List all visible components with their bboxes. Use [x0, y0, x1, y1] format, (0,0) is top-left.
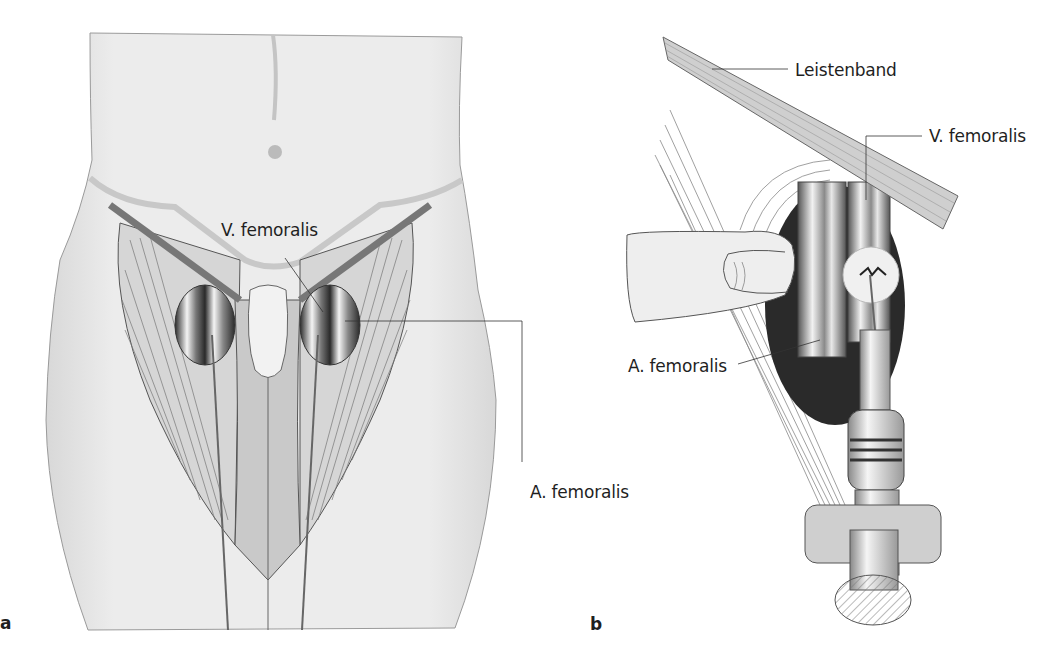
panel-b-puncture-detail: Leistenband V. femoralis A. femoralis b: [530, 0, 1056, 664]
label-vena-femoralis-b: V. femoralis: [929, 126, 1026, 146]
label-vena-femoralis-a: V. femoralis: [221, 220, 318, 240]
panel-letter-b: b: [590, 614, 602, 634]
label-arteria-femoralis-b: A. femoralis: [628, 356, 727, 376]
label-leistenband-b: Leistenband: [795, 60, 897, 80]
panel-letter-a: a: [0, 613, 11, 633]
panel-a-anterior-view: V. femoralis A. femoralis a: [0, 0, 530, 664]
anatomy-illustration-a: [0, 0, 530, 664]
anatomy-illustration-b: [530, 0, 1056, 664]
